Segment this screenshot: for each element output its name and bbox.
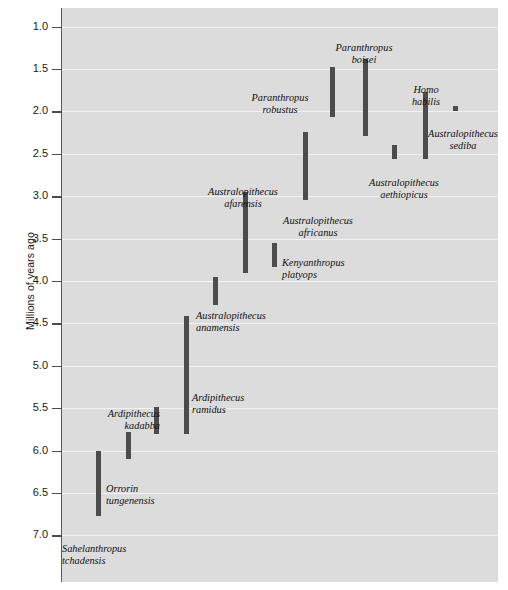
species-label: Australopithecussediba	[418, 128, 508, 151]
species-range-bar	[363, 59, 368, 136]
species-range-bar	[392, 145, 397, 159]
gridline	[62, 323, 498, 324]
species-range-bar	[126, 432, 131, 459]
species-label-line: Ardipithecus	[70, 408, 160, 420]
species-label-line: boisei	[324, 54, 404, 66]
species-range-bar	[330, 67, 335, 117]
gridline	[62, 281, 498, 282]
species-range-bar	[184, 316, 189, 434]
species-label-line: Kenyanthropus	[282, 257, 345, 269]
species-label-line: tungenensis	[106, 495, 155, 507]
y-axis-tick	[52, 323, 62, 324]
y-axis-tick	[52, 154, 62, 155]
y-axis-tick-label: 2.0	[4, 104, 48, 116]
y-axis-tick-label: 1.0	[4, 20, 48, 32]
species-label-line: Paranthropus	[324, 42, 404, 54]
species-label: Homohabilis	[398, 84, 454, 107]
species-label-line: africanus	[272, 227, 364, 239]
y-axis-tick-label: 1.5	[4, 62, 48, 74]
y-axis-tick-label: 2.5	[4, 147, 48, 159]
species-label-line: habilis	[398, 96, 454, 108]
species-label: Ardipithecusramidus	[192, 392, 244, 415]
y-axis-tick	[52, 366, 62, 367]
species-label: Ardipithecuskadabba	[70, 408, 160, 431]
species-label-line: Ardipithecus	[192, 392, 244, 404]
y-axis-tick	[52, 239, 62, 240]
species-label-line: Orrorin	[106, 483, 155, 495]
species-label-line: tchadensis	[62, 555, 126, 567]
species-label-line: Homo	[398, 84, 454, 96]
y-axis-tick-label: 4.0	[4, 274, 48, 286]
y-axis-spine	[61, 8, 62, 582]
species-label-line: aethiopicus	[352, 189, 456, 201]
hominin-timeline-chart: Millions of years ago 1.01.52.02.53.03.5…	[0, 0, 508, 590]
y-axis-tick	[52, 535, 62, 536]
species-label: Paranthropusboisei	[324, 42, 404, 65]
y-axis-tick-label: 5.5	[4, 401, 48, 413]
species-range-bar	[96, 451, 101, 516]
y-axis-tick-label: 3.5	[4, 232, 48, 244]
species-label: Orrorintungenensis	[106, 483, 155, 506]
species-label: Australopithecusafricanus	[272, 215, 364, 238]
y-axis-tick	[52, 196, 62, 197]
species-label-line: Sahelanthropus	[62, 543, 126, 555]
y-axis-tick	[52, 408, 62, 409]
species-label-line: afarensis	[178, 198, 308, 210]
y-axis-tick-label: 6.0	[4, 444, 48, 456]
y-axis-tick-label: 6.5	[4, 486, 48, 498]
y-axis-tick	[52, 111, 62, 112]
y-axis-tick	[52, 451, 62, 452]
y-axis-tick	[52, 27, 62, 28]
gridline	[62, 154, 498, 155]
y-axis-tick	[52, 69, 62, 70]
species-range-bar	[272, 243, 277, 267]
species-label: Australopithecusaethiopicus	[352, 177, 456, 200]
y-axis-tick-label: 5.0	[4, 359, 48, 371]
species-label-line: platyops	[282, 269, 345, 281]
species-label-line: kadabba	[70, 420, 160, 432]
species-label: Australopithecusafarensis	[178, 186, 308, 209]
y-axis-tick-label: 4.5	[4, 316, 48, 328]
gridline	[62, 535, 498, 536]
y-axis-tick-label: 3.0	[4, 189, 48, 201]
species-label-line: Australopithecus	[178, 186, 308, 198]
species-label-line: Australopithecus	[352, 177, 456, 189]
y-axis-tick	[52, 493, 62, 494]
gridline	[62, 239, 498, 240]
species-label: Australopithecusanamensis	[196, 310, 266, 333]
species-label-line: Australopithecus	[272, 215, 364, 227]
gridline	[62, 69, 498, 70]
species-label-line: anamensis	[196, 322, 266, 334]
species-range-bar	[213, 277, 218, 305]
species-label-line: robustus	[232, 104, 328, 116]
species-label-line: ramidus	[192, 404, 244, 416]
species-label-line: Paranthropus	[232, 92, 328, 104]
y-axis-tick	[52, 281, 62, 282]
species-label: Paranthropusrobustus	[232, 92, 328, 115]
species-label-line: Australopithecus	[196, 310, 266, 322]
gridline	[62, 27, 498, 28]
species-label: Sahelanthropustchadensis	[62, 543, 126, 566]
y-axis-tick-label: 7.0	[4, 528, 48, 540]
species-label-line: Australopithecus	[418, 128, 508, 140]
species-label-line: sediba	[418, 140, 508, 152]
species-label: Kenyanthropusplatyops	[282, 257, 345, 280]
gridline	[62, 366, 498, 367]
